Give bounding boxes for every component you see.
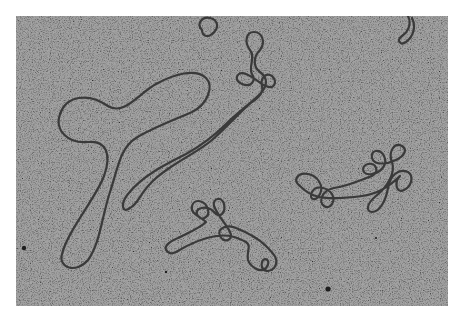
dna-micrograph [16, 16, 448, 306]
micrograph-svg [16, 16, 448, 306]
dark-grain [16, 16, 448, 306]
